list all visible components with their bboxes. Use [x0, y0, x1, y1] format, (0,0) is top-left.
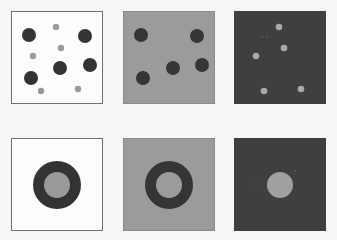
panel-top-right-small-dots — [234, 11, 326, 104]
panel-bottom-right-disk — [234, 138, 326, 231]
disk-image — [234, 138, 326, 231]
large-dots-image — [123, 11, 215, 104]
dots-composite-image — [11, 11, 103, 104]
small-dots-image — [234, 11, 326, 104]
panel-top-middle-large-dots — [123, 11, 215, 104]
ring-disk-composite-image — [11, 138, 103, 231]
panel-top-left-combined-dots — [11, 11, 103, 104]
panel-bottom-left-ring-and-disk — [11, 138, 103, 231]
panel-bottom-middle-ring — [123, 138, 215, 231]
ring-image — [123, 138, 215, 231]
